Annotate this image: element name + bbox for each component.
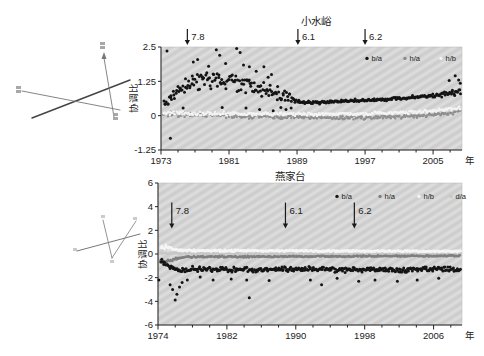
y-tick-label: 2.5 — [143, 41, 156, 52]
legend-marker-icon — [439, 57, 442, 60]
survey-line — [112, 221, 136, 258]
magnitude-label: 6.1 — [302, 31, 315, 42]
chart-panel-燕家台: 燕家台6420-2-4-6协调比19741982199019982006年7.8… — [137, 170, 475, 341]
legend-label: b/a — [372, 54, 383, 63]
y-tick-label: 1.25 — [138, 76, 157, 87]
legend-marker-icon — [378, 195, 381, 198]
chart-canvas: 小水峪2.51.250-1.25协调比19731981198919972005年… — [0, 0, 484, 356]
baseline-line — [32, 80, 130, 118]
site-label-marks — [16, 42, 118, 120]
y-tick-label: 0 — [148, 248, 153, 259]
y-tick-label: -2 — [145, 272, 153, 283]
panel-title: 燕家台 — [275, 170, 305, 182]
magnitude-label: 6.2 — [369, 31, 382, 42]
x-axis-unit-label: 年 — [465, 330, 475, 341]
y-axis-title: 协调比 — [128, 83, 139, 113]
y-axis-title: 协调比 — [137, 239, 148, 269]
y-tick-label: 4 — [148, 201, 153, 212]
x-axis-unit-label: 年 — [465, 155, 475, 166]
y-tick-label: 0 — [151, 110, 156, 121]
legend-label: h/b — [424, 192, 434, 201]
y-tick-label: -1.25 — [134, 144, 156, 155]
magnitude-label: 7.8 — [191, 31, 204, 42]
legend-label: b/a — [342, 192, 353, 201]
x-tick-label: 2006 — [423, 330, 444, 341]
x-tick-label: 1989 — [286, 155, 307, 166]
survey-site-sketch-top — [16, 42, 130, 120]
survey-site-sketch-bottom — [73, 215, 140, 263]
survey-line — [103, 220, 112, 258]
earthquake-arrowhead-icon — [295, 40, 300, 45]
legend-marker-icon — [417, 195, 420, 198]
survey-line — [22, 91, 120, 110]
legend-label: d/a — [456, 192, 467, 201]
magnitude-label: 6.2 — [358, 205, 371, 216]
x-tick-label: 1973 — [150, 155, 171, 166]
earthquake-arrowhead-icon — [362, 40, 367, 45]
y-tick-label: -4 — [145, 296, 153, 307]
chart-panels: 小水峪2.51.250-1.25协调比19731981198919972005年… — [128, 15, 475, 341]
legend-label: h/b — [446, 54, 456, 63]
north-arrow-icon — [102, 52, 107, 59]
x-tick-label: 1990 — [285, 330, 306, 341]
chart-panel-小水峪: 小水峪2.51.250-1.25协调比19731981198919972005年… — [128, 15, 475, 166]
site-label-marks — [73, 215, 137, 263]
magnitude-label: 6.1 — [289, 205, 302, 216]
x-tick-label: 1981 — [218, 155, 239, 166]
x-tick-label: 1982 — [216, 330, 237, 341]
x-tick-label: 1998 — [354, 330, 375, 341]
earthquake-arrowhead-icon — [185, 40, 190, 45]
legend-marker-icon — [335, 195, 338, 198]
figure-cross-fault-coordination-ratio: 小水峪2.51.250-1.25协调比19731981198919972005年… — [0, 0, 484, 356]
legend-marker-icon — [403, 57, 406, 60]
x-tick-label: 2005 — [423, 155, 444, 166]
y-tick-label: 2 — [148, 225, 153, 236]
y-tick-label: 6 — [148, 177, 153, 188]
legend-marker-icon — [365, 57, 368, 60]
legend-marker-icon — [449, 195, 452, 198]
panel-title: 小水峪 — [301, 15, 332, 27]
x-tick-label: 1997 — [354, 155, 375, 166]
y-tick-label: -6 — [145, 319, 153, 330]
legend-label: h/a — [410, 54, 421, 63]
magnitude-label: 7.8 — [176, 205, 189, 216]
x-tick-label: 1974 — [147, 330, 168, 341]
legend-label: h/a — [385, 192, 396, 201]
